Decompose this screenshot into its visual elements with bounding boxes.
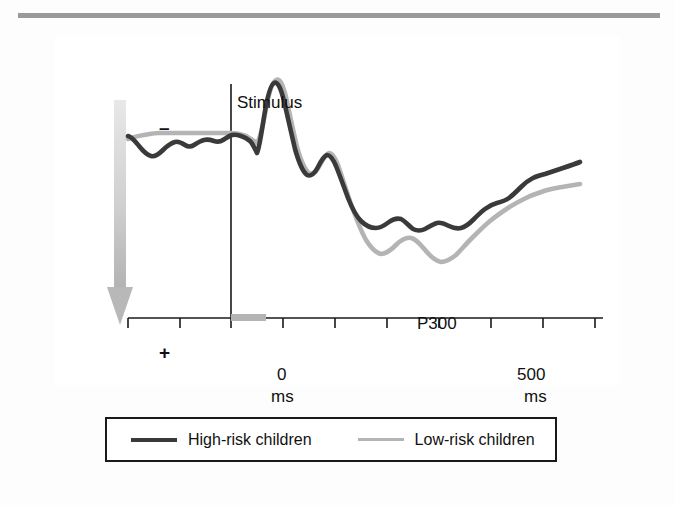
x-tick-unit-500: ms — [524, 387, 547, 407]
erp-waveform-plot — [55, 37, 620, 385]
polarity-positive-label: + — [159, 342, 170, 364]
legend-item-low-risk: Low-risk children — [358, 431, 535, 449]
polarity-negative-label: – — [159, 117, 170, 139]
stimulus-duration-bar — [231, 314, 266, 321]
x-tick-label-500: 500 — [517, 365, 545, 385]
polarity-arrow-icon — [107, 100, 133, 325]
legend-label-low-risk: Low-risk children — [415, 431, 535, 449]
x-axis-ticks — [128, 318, 595, 328]
stimulus-label: Stimulus — [237, 93, 302, 113]
series-line-high-risk — [128, 83, 580, 231]
plot-panel: Stimulus – + P300 0 ms 500 ms — [55, 37, 620, 385]
p300-component-label: P300 — [417, 314, 457, 334]
legend: High-risk children Low-risk children — [105, 417, 557, 462]
top-divider-rule — [18, 13, 660, 18]
legend-swatch-high-risk-icon — [131, 438, 177, 442]
series-line-low-risk — [128, 80, 580, 262]
x-tick-unit-0: ms — [271, 387, 294, 407]
x-tick-label-0: 0 — [277, 365, 286, 385]
legend-swatch-low-risk-icon — [358, 438, 404, 441]
legend-label-high-risk: High-risk children — [188, 431, 312, 449]
legend-item-high-risk: High-risk children — [131, 431, 312, 449]
erp-figure: Stimulus – + P300 0 ms 500 ms High-risk … — [0, 0, 675, 505]
